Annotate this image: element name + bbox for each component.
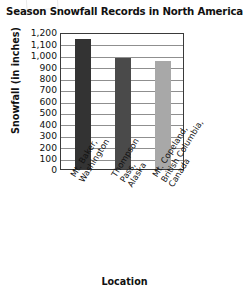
y-tick-label: 100	[18, 154, 57, 163]
y-tick-label: 700	[18, 85, 57, 94]
chart-title: Season Snowfall Records in North America	[0, 6, 249, 18]
y-axis-tick-labels: 1,2001,1001,0009008007006005004003002001…	[18, 28, 57, 170]
x-axis-title: Location	[0, 276, 249, 287]
y-tick-label: 400	[18, 120, 57, 129]
y-tick-label: 300	[18, 131, 57, 140]
y-tick-label: 500	[18, 108, 57, 117]
y-tick-label: 600	[18, 97, 57, 106]
y-tick-label: 200	[18, 143, 57, 152]
y-tick-label: 1,200	[18, 28, 57, 37]
x-axis-tick-labels: Mt. Baker,WashingtonThompsonPass,AlaskaM…	[0, 172, 249, 267]
y-tick-label: 1,000	[18, 51, 57, 60]
y-tick-label: 1,100	[18, 40, 57, 49]
y-tick-label: 800	[18, 74, 57, 83]
y-tick-label: 900	[18, 63, 57, 72]
bar-chart-figure: Season Snowfall Records in North America…	[0, 0, 249, 293]
